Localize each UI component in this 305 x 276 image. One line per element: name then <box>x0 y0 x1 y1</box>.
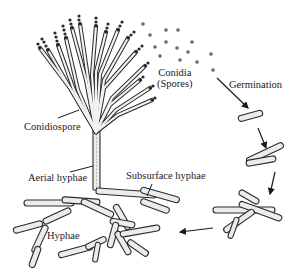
conidiophore-illustration <box>36 14 156 190</box>
hyphae-network <box>13 187 180 269</box>
conidia-spores <box>141 22 215 72</box>
conidiospore-leader <box>58 110 79 118</box>
label-conidia-line2: (Spores) <box>157 78 193 89</box>
label-conidia: Conidia (Spores) <box>157 67 193 89</box>
label-conidia-line1: Conidia <box>157 67 193 78</box>
label-germination: Germination <box>229 79 282 90</box>
fungal-life-cycle-diagram: Conidiospore Conidia (Spores) Germinatio… <box>0 0 305 276</box>
label-conidiospore: Conidiospore <box>24 121 81 132</box>
label-hyphae: Hyphae <box>47 230 80 241</box>
label-aerial-hyphae: Aerial hyphae <box>28 172 87 183</box>
diagram-canvas <box>0 0 305 276</box>
label-subsurface-hyphae: Subsurface hyphae <box>126 170 206 181</box>
germination-sequence <box>180 78 284 239</box>
